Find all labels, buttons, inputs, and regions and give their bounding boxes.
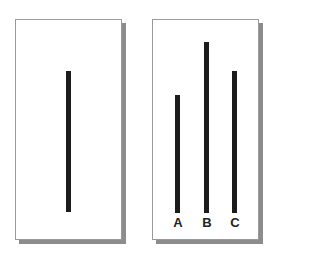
label-c: C [225,216,245,230]
comparison-line-c [232,71,237,213]
comparison-line-b [204,42,209,213]
comparison-line-a [175,95,180,213]
label-a: A [168,216,188,230]
reference-line [66,71,71,212]
label-b: B [197,216,217,230]
